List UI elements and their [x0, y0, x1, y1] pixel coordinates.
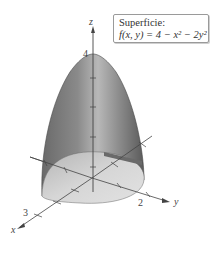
x-axis-label: x: [11, 224, 15, 235]
x-axis-arrow: [17, 223, 25, 229]
surface-plot: Superficie: f(x, y) = 4 − x² − 2y² z 4 y…: [0, 0, 222, 253]
y-axis-label: y: [174, 196, 178, 207]
x-tick-3: 3: [23, 207, 28, 218]
z-axis-arrow: [91, 26, 95, 33]
function-label-box: Superficie: f(x, y) = 4 − x² − 2y²: [113, 14, 209, 43]
z-tick-4: 4: [83, 48, 88, 59]
z-axis-label: z: [89, 16, 93, 27]
y-tick-2: 2: [138, 197, 143, 208]
y-axis-arrow: [162, 198, 170, 203]
surface-title: Superficie:: [119, 17, 208, 29]
function-equation: f(x, y) = 4 − x² − 2y²: [119, 29, 208, 41]
